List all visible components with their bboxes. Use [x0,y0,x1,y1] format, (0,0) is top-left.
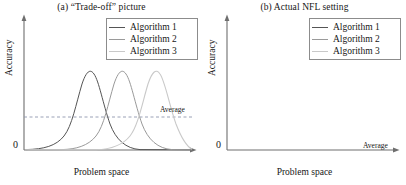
panel-a-origin-label: 0 [13,139,18,151]
y-axis-arrow-icon [22,15,27,22]
legend-line-icon-algorithm-3 [312,51,328,52]
panel-a-legend: Algorithm 1 Algorithm 2 Algorithm 3 [106,18,198,60]
panel-b-legend: Algorithm 1 Algorithm 2 Algorithm 3 [309,18,401,60]
legend-label-algorithm-1: Algorithm 1 [333,21,380,33]
legend-item-algorithm-2[interactable]: Algorithm 2 [109,33,194,45]
legend-label-algorithm-2: Algorithm 2 [130,33,177,45]
legend-item-algorithm-1[interactable]: Algorithm 1 [109,21,194,33]
legend-label-algorithm-3: Algorithm 3 [130,45,177,57]
panel-a: (a) “Trade-off” picture Accuracy 0 Probl… [0,0,203,185]
panel-a-average-label: Average [160,105,185,114]
legend-item-algorithm-1[interactable]: Algorithm 1 [312,21,397,33]
legend-line-icon-algorithm-1 [312,27,328,28]
panel-a-y-axis-label: Accuracy [2,62,16,76]
panel-b-origin-label: 0 [216,139,221,151]
legend-line-icon-algorithm-3 [109,51,125,52]
legend-label-algorithm-1: Algorithm 1 [130,21,177,33]
legend-item-algorithm-2[interactable]: Algorithm 2 [312,33,397,45]
legend-line-icon-algorithm-2 [109,39,125,40]
x-axis-arrow-icon [393,148,400,153]
legend-line-icon-algorithm-2 [312,39,328,40]
legend-item-algorithm-3[interactable]: Algorithm 3 [109,45,194,57]
legend-line-icon-algorithm-1 [109,27,125,28]
panel-b-average-label: Average [363,141,388,150]
figure-two-panel-nfl: (a) “Trade-off” picture Accuracy 0 Probl… [0,0,406,185]
legend-label-algorithm-3: Algorithm 3 [333,45,380,57]
panel-b-x-axis-label: Problem space [203,166,406,178]
panel-b-y-axis-label: Accuracy [205,62,219,76]
panel-b: (b) Actual NFL setting Accuracy 0 Proble… [203,0,406,185]
y-axis-arrow-icon [225,15,230,22]
panel-a-x-axis-label: Problem space [0,166,203,178]
legend-item-algorithm-3[interactable]: Algorithm 3 [312,45,397,57]
legend-label-algorithm-2: Algorithm 2 [333,33,380,45]
